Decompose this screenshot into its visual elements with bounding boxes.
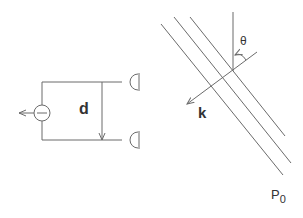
diagram-canvas: d θ k P0: [0, 0, 303, 218]
wavevector-label: k: [198, 104, 206, 121]
angle-arc: [235, 54, 246, 60]
plane-label-main: P: [271, 187, 280, 202]
wavevector-arrow: [187, 52, 257, 104]
plane-label-subscript: 0: [280, 193, 286, 205]
plane-label: P0: [271, 187, 286, 205]
source-icon: [34, 105, 50, 121]
wavefront-planes: [161, 17, 291, 175]
distance-label: d: [79, 100, 89, 118]
diagram-graphics: [0, 0, 303, 218]
detector-top-icon: [130, 73, 139, 91]
detector-bottom-icon: [130, 131, 139, 149]
angle-label: θ: [240, 34, 247, 48]
